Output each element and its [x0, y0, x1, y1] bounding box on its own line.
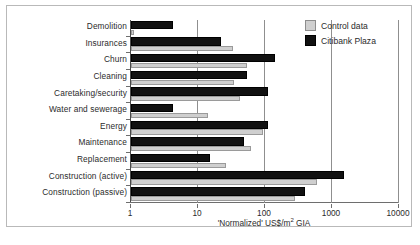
bar-control-data: [131, 96, 240, 101]
bar-control-data: [131, 30, 134, 35]
legend-item[interactable]: Control data: [305, 20, 409, 31]
x-axis-title: 'Normalized' US$/m2 GIA: [130, 217, 398, 228]
legend-label: Control data: [321, 21, 368, 31]
bar-citibank-plaza: [131, 137, 244, 145]
bar-control-data: [131, 179, 317, 184]
chart-row: [130, 70, 398, 87]
category-label: Cleaning: [93, 71, 127, 81]
chart-row: [130, 103, 398, 120]
chart-row: [130, 153, 398, 170]
chart-frame: DemolitionInsurancesChurnCleaningCaretak…: [6, 5, 412, 227]
category-axis-labels: DemolitionInsurancesChurnCleaningCaretak…: [7, 20, 127, 203]
chart-row: [130, 53, 398, 70]
category-label: Caretaking/security: [54, 88, 127, 98]
category-label: Replacement: [77, 154, 127, 164]
bar-citibank-plaza: [131, 21, 173, 29]
bar-control-data: [131, 163, 226, 168]
bar-citibank-plaza: [131, 37, 221, 45]
category-label: Insurances: [85, 38, 127, 48]
bar-control-data: [131, 80, 234, 85]
bar-citibank-plaza: [131, 71, 247, 79]
bar-citibank-plaza: [131, 171, 344, 179]
category-label: Maintenance: [78, 137, 127, 147]
bar-control-data: [131, 63, 247, 68]
x-axis-title-suffix: GIA: [294, 218, 311, 228]
chart-row: [130, 186, 398, 203]
x-axis-title-prefix: 'Normalized' US$/m: [218, 218, 291, 228]
chart-row: [130, 170, 398, 187]
chart-row: [130, 120, 398, 137]
bar-control-data: [131, 46, 233, 51]
legend-swatch-citibank: [305, 35, 316, 46]
category-tick: [126, 202, 130, 203]
bar-control-data: [131, 146, 251, 151]
chart-screenshot: DemolitionInsurancesChurnCleaningCaretak…: [0, 0, 420, 245]
chart-legend: Control dataCitibank Plaza: [305, 20, 409, 50]
category-label: Churn: [104, 54, 127, 64]
bar-citibank-plaza: [131, 87, 268, 95]
bar-control-data: [131, 196, 295, 201]
bar-citibank-plaza: [131, 54, 275, 62]
bar-citibank-plaza: [131, 187, 305, 195]
bar-citibank-plaza: [131, 121, 268, 129]
chart-row: [130, 136, 398, 153]
category-label: Construction (active): [49, 171, 127, 181]
chart-row: [130, 87, 398, 104]
legend-swatch-control: [305, 20, 316, 31]
bar-citibank-plaza: [131, 154, 210, 162]
bar-control-data: [131, 129, 263, 134]
bar-control-data: [131, 113, 208, 118]
category-label: Water and sewerage: [49, 104, 127, 114]
category-label: Energy: [100, 121, 127, 131]
legend-item[interactable]: Citibank Plaza: [305, 35, 409, 46]
bar-citibank-plaza: [131, 104, 173, 112]
value-axis-ticks: 110100100010000: [130, 204, 398, 218]
category-label: Demolition: [87, 21, 127, 31]
category-label: Construction (passive): [42, 187, 127, 197]
legend-label: Citibank Plaza: [321, 36, 376, 46]
